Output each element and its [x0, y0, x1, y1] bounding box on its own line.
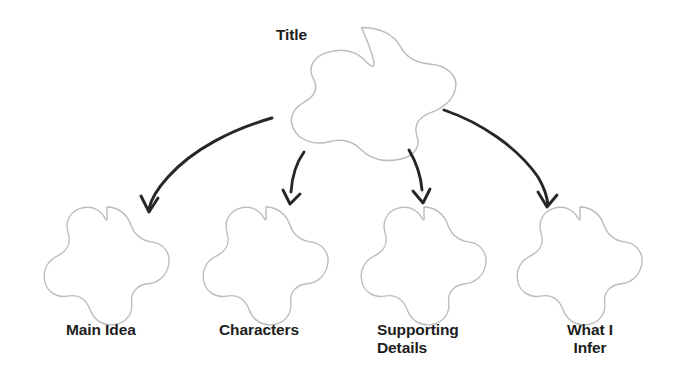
node-label-supporting-details: Supporting Details [377, 321, 517, 356]
node-shape-main-idea[interactable] [44, 207, 169, 325]
node-label-main-idea: Main Idea [66, 321, 196, 339]
diagram-canvas: Title Main Idea Characters Supporting De… [0, 0, 693, 377]
node-label-what-i-infer: What I Infer [525, 321, 655, 356]
node-shape-supporting-details[interactable] [361, 207, 486, 325]
node-shape-title[interactable] [289, 22, 456, 170]
arrow-to-characters [283, 152, 304, 204]
node-label-title: Title [276, 26, 307, 44]
node-shape-characters[interactable] [203, 207, 328, 325]
node-label-characters: Characters [219, 321, 349, 339]
arrow-to-what-i-infer [444, 110, 557, 207]
node-shape-what-i-infer[interactable] [517, 207, 642, 325]
arrow-to-main-idea [141, 118, 272, 212]
arrow-to-supporting-details [409, 150, 430, 203]
